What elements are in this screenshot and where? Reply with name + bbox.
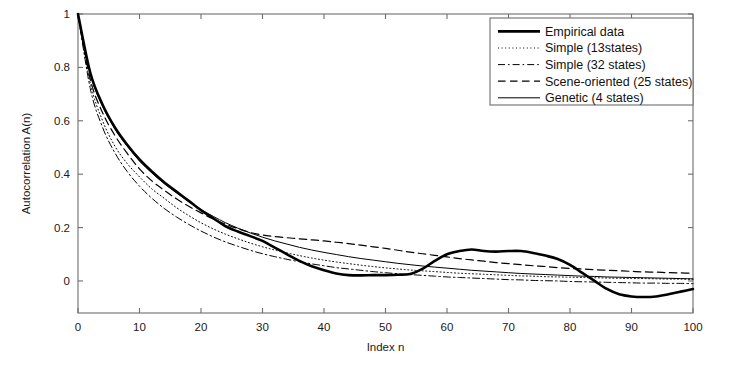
y-axis-label: Autocorrelation A(n) [20,113,32,215]
legend-label-4: Genetic (4 states) [545,91,644,105]
x-axis-label: Index n [367,341,405,353]
autocorrelation-chart: 010203040506070809010000.20.40.60.81Inde… [0,0,733,366]
y-tick-label: 0 [64,275,70,287]
x-tick-label: 50 [379,321,392,333]
y-tick-label: 0.2 [54,222,70,234]
chart-canvas: 010203040506070809010000.20.40.60.81Inde… [0,0,733,366]
y-tick-label: 0.6 [54,115,70,127]
legend-label-2: Simple (32 states) [545,58,646,72]
y-tick-label: 1 [64,8,70,20]
legend-label-1: Simple (13states) [545,41,642,55]
x-tick-label: 40 [318,321,331,333]
x-tick-label: 20 [195,321,208,333]
y-tick-label: 0.8 [54,61,70,73]
x-tick-label: 90 [625,321,638,333]
x-tick-label: 80 [564,321,577,333]
x-tick-label: 70 [502,321,515,333]
y-tick-label: 0.4 [54,168,71,180]
x-tick-label: 60 [441,321,454,333]
x-tick-label: 100 [683,321,702,333]
x-tick-label: 30 [256,321,269,333]
x-tick-label: 10 [133,321,146,333]
x-tick-label: 0 [75,321,81,333]
legend-label-0: Empirical data [545,25,624,39]
legend-label-3: Scene-oriented (25 states) [545,75,692,89]
